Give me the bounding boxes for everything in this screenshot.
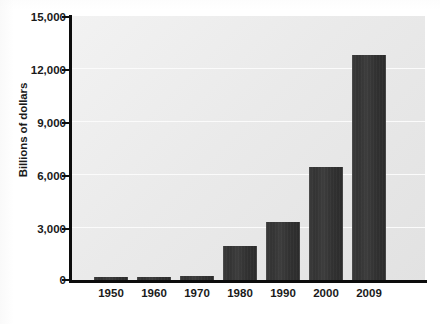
x-tick-label-1980: 1980	[216, 286, 264, 300]
bars-layer	[70, 16, 425, 280]
x-tick-label-1970: 1970	[173, 286, 221, 300]
x-axis-tick-labels: 1950 1960 1970 1980 1990 2000 2009	[70, 286, 425, 306]
y-axis-line	[69, 15, 72, 282]
x-tick-label-1960: 1960	[130, 286, 178, 300]
x-tick-label-1990: 1990	[259, 286, 307, 300]
x-tick-label-2000: 2000	[302, 286, 350, 300]
y-tick-label-15000: 15,000	[14, 11, 66, 23]
y-tick-label-12000: 12,000	[14, 64, 66, 76]
bar-2009	[352, 55, 386, 280]
x-axis-line	[69, 280, 427, 283]
y-tick-label-0: 0	[14, 274, 66, 286]
x-tick-label-2009: 2009	[345, 286, 393, 300]
bar-1980	[223, 246, 257, 280]
y-tick-label-9000: 9,000	[14, 117, 66, 129]
x-tick-label-1950: 1950	[87, 286, 135, 300]
y-axis-tick-labels: 0 3,000 6,000 9,000 12,000 15,000	[14, 0, 66, 324]
y-tick-label-6000: 6,000	[14, 170, 66, 182]
bar-1990	[266, 222, 300, 280]
bar-2000	[309, 167, 343, 280]
y-tick-label-3000: 3,000	[14, 223, 66, 235]
bar-chart-figure: Billions of dollars 0 3,000 6,000 9,000 …	[0, 0, 440, 324]
